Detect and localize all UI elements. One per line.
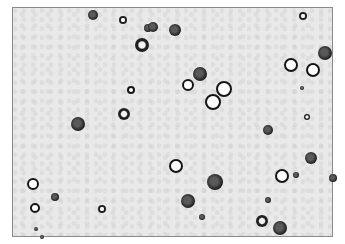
cell-dark	[300, 86, 304, 90]
cell-ring	[30, 203, 40, 213]
cell-ringdark	[256, 215, 268, 227]
cell-dark	[34, 227, 38, 231]
cell-ring	[216, 81, 232, 97]
cell-dark	[181, 194, 195, 208]
cell-dark	[199, 214, 205, 220]
cell-dark	[329, 174, 337, 182]
cell-ring	[127, 86, 135, 94]
cell-dark	[207, 174, 223, 190]
cell-dark	[263, 125, 273, 135]
cell-ringdark	[118, 108, 130, 120]
cell-ring	[275, 169, 289, 183]
cell-dark	[148, 22, 158, 32]
cell-ringdark	[135, 38, 149, 52]
cell-dark	[71, 117, 85, 131]
cell-ring	[284, 58, 298, 72]
cell-dark	[273, 221, 287, 235]
cell-dark	[169, 24, 181, 36]
cell-ring	[306, 63, 320, 77]
cell-dark	[40, 235, 44, 239]
cell-dark	[318, 46, 332, 60]
cell-ringdark	[98, 205, 106, 213]
cell-dark	[305, 152, 317, 164]
cell-ring	[205, 94, 221, 110]
cell-ringdark	[299, 12, 307, 20]
cell-ring	[182, 79, 194, 91]
cell-ring	[169, 159, 183, 173]
micrograph-frame	[12, 7, 333, 237]
cell-ring	[27, 178, 39, 190]
cell-dark	[265, 197, 271, 203]
cell-dark	[88, 10, 98, 20]
cell-dark	[193, 67, 207, 81]
cell-ringdark	[304, 114, 310, 120]
cell-dark	[51, 193, 59, 201]
cell-ringdark	[119, 16, 127, 24]
cell-dark	[293, 172, 299, 178]
